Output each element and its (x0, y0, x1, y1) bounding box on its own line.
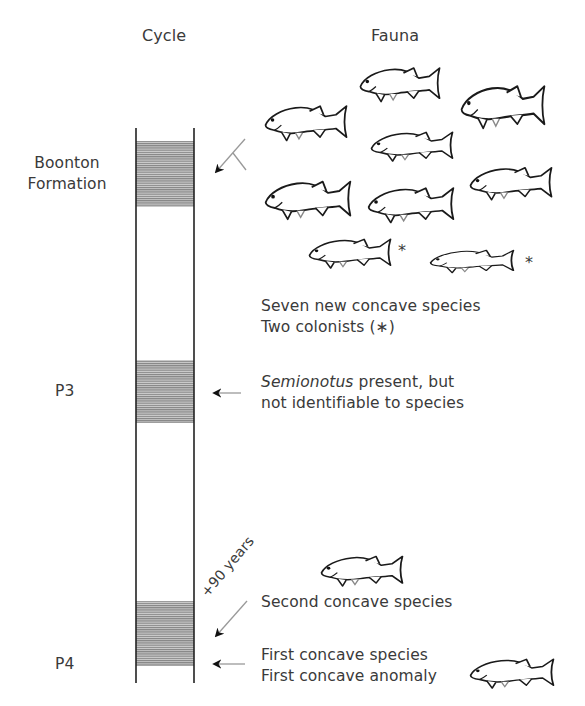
second-concave-fish-icon (322, 556, 403, 586)
fish-icon (369, 188, 454, 222)
time-gap-arrow-icon (216, 601, 247, 636)
fish-icon (372, 132, 453, 161)
stratigraphic-column (136, 128, 194, 683)
fish-icon (266, 106, 347, 140)
colonist-fish-icon (310, 239, 391, 268)
fish-icon (266, 182, 351, 220)
p3-band (136, 360, 194, 423)
fish-icon (360, 68, 439, 102)
colonist-fish-icon (431, 250, 514, 272)
diagram-canvas (0, 0, 585, 706)
boonton-arrow-icon (216, 139, 246, 172)
p4-band (136, 601, 194, 666)
first-concave-fish-icon (471, 659, 554, 688)
fish-icon (471, 168, 552, 200)
fish-icon (462, 86, 545, 128)
boonton-band (136, 141, 194, 207)
